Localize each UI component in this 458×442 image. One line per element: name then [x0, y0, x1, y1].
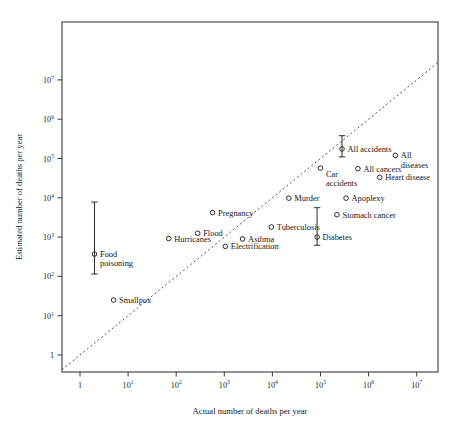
data-point-label: Asthma — [248, 235, 274, 244]
data-point-group: Caraccidents — [318, 166, 357, 189]
x-tick-label: 104 — [267, 379, 278, 389]
data-point-label: Apoplexy — [352, 194, 386, 203]
data-point-marker — [269, 225, 274, 230]
x-tick-label: 105 — [315, 379, 326, 389]
scatter-plot-canvas: 1101102103104105106107 11011021031041051… — [0, 0, 458, 442]
data-point-marker — [111, 298, 116, 303]
y-tick-label: 105 — [43, 153, 54, 163]
data-point-label: Pregnancy — [218, 209, 254, 218]
data-point-marker — [166, 236, 171, 241]
y-tick-label: 103 — [43, 232, 54, 242]
x-tick-label: 107 — [411, 379, 422, 389]
data-point-label: Heart disease — [385, 173, 430, 182]
x-tick-label: 102 — [171, 379, 182, 389]
axis-titles: Actual number of deaths per yearEstimate… — [14, 134, 308, 416]
data-point-group: All cancers — [356, 165, 402, 174]
data-point-label: Alldiseases — [401, 151, 428, 169]
data-point-label: Flood — [203, 229, 223, 238]
x-tick-label: 106 — [363, 379, 374, 389]
data-point-marker — [240, 237, 245, 242]
data-point-group: All accidents — [339, 136, 392, 157]
data-point-group: Stomach cancer — [335, 211, 396, 220]
data-point-group: Smallpox — [111, 296, 152, 305]
y-tick-label: 107 — [43, 75, 54, 85]
data-point-marker — [318, 166, 323, 171]
data-point-label: Tuberculosis — [277, 223, 320, 232]
x-tick-label: 101 — [123, 379, 134, 389]
chart-figure: 1101102103104105106107 11011021031041051… — [0, 0, 458, 442]
x-axis-title: Actual number of deaths per year — [193, 406, 308, 416]
data-point-group: Tuberculosis — [269, 223, 320, 232]
y-tick-label: 1 — [50, 351, 54, 360]
data-point-marker — [335, 212, 340, 217]
data-point-marker — [377, 175, 382, 180]
data-points-layer: FoodpoisoningSmallpoxHurricanesFloodPreg… — [91, 136, 430, 305]
data-point-label: Stomach cancer — [342, 211, 395, 220]
data-point-label: Foodpoisoning — [100, 250, 134, 268]
data-point-label: Murder — [294, 194, 319, 203]
x-tick-label: 103 — [219, 379, 230, 389]
data-point-group: Pregnancy — [210, 209, 254, 218]
data-point-marker — [356, 166, 361, 171]
data-point-marker — [393, 153, 398, 158]
x-axis-ticks: 1101102103104105106107 — [78, 372, 422, 390]
y-tick-label: 102 — [43, 271, 54, 281]
y-tick-label: 104 — [43, 193, 54, 203]
data-point-label: All cancers — [363, 165, 401, 174]
y-axis-ticks: 1101102103104105106107 — [43, 75, 62, 360]
y-axis-title: Estimated number of deaths per year — [14, 134, 24, 260]
data-point-label: Caraccidents — [326, 170, 357, 188]
data-point-group: Apoplexy — [344, 194, 386, 203]
data-point-label: Diabetes — [323, 233, 352, 242]
data-point-group: Murder — [287, 194, 320, 203]
x-tick-label: 1 — [78, 381, 82, 390]
data-point-marker — [287, 196, 292, 201]
data-point-marker — [223, 244, 228, 249]
data-point-label: All accidents — [348, 145, 392, 154]
data-point-label: Smallpox — [119, 296, 152, 305]
data-point-marker — [344, 196, 349, 201]
data-point-group: Foodpoisoning — [91, 202, 134, 274]
data-point-group: Heart disease — [377, 173, 430, 182]
data-point-marker — [210, 210, 215, 215]
y-tick-label: 106 — [43, 114, 54, 124]
y-tick-label: 101 — [43, 311, 54, 321]
